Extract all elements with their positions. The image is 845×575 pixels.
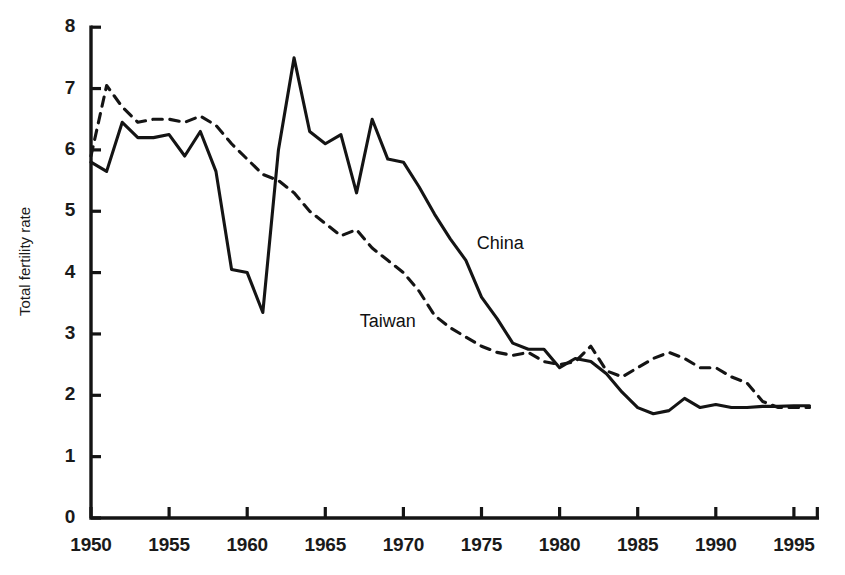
series-annotation-taiwan: Taiwan: [360, 311, 416, 332]
chart-plot-area: [0, 0, 845, 575]
fertility-rate-chart: Total fertility rate 012345678 195019551…: [0, 0, 845, 575]
y-axis-tick-label: 4: [13, 261, 75, 283]
y-axis-tick-label: 6: [13, 138, 75, 160]
axis-spines: [91, 27, 817, 518]
series-annotation-china: China: [477, 233, 524, 254]
y-axis-tick-label: 1: [13, 445, 75, 467]
y-axis-tick-label: 5: [13, 199, 75, 221]
y-axis-tick-label: 0: [13, 506, 75, 528]
y-axis-tick-label: 7: [13, 77, 75, 99]
y-axis-tick-label: 3: [13, 322, 75, 344]
y-axis-tick-label: 8: [13, 15, 75, 37]
x-axis-tick-label: 1995: [744, 534, 844, 556]
y-axis-tick-label: 2: [13, 383, 75, 405]
series-line-china: [91, 58, 810, 414]
